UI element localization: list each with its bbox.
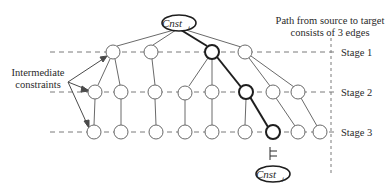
source-subscript: i <box>188 24 190 32</box>
node-highlighted <box>266 125 280 139</box>
svg-text:Cnst: Cnst <box>162 17 183 29</box>
path-annotation-line1: Path from source to target <box>276 15 385 26</box>
node-highlighted <box>205 45 219 59</box>
node-highlighted <box>239 85 253 99</box>
entails-symbol <box>270 147 277 160</box>
svg-text:Cnst: Cnst <box>256 168 277 180</box>
node <box>144 45 158 59</box>
node <box>106 45 120 59</box>
node <box>148 85 162 99</box>
target-subscript: j <box>281 175 284 183</box>
stage-3-nodes <box>87 125 327 139</box>
node <box>291 125 305 139</box>
node <box>238 45 252 59</box>
node <box>149 125 163 139</box>
node <box>205 125 219 139</box>
node <box>178 125 192 139</box>
source-label: Cnst <box>162 17 183 29</box>
stage-2-label: Stage 2 <box>341 87 372 98</box>
node <box>205 85 219 99</box>
node <box>88 85 102 99</box>
intermediate-label-line2: constraints <box>15 79 61 90</box>
node <box>114 125 128 139</box>
stage-3-label: Stage 3 <box>341 127 372 138</box>
node <box>114 85 128 99</box>
target-label: Cnst <box>256 168 277 180</box>
node <box>238 125 252 139</box>
path-annotation-line2: consists of 3 edges <box>290 27 369 38</box>
constraint-graph-diagram: Cnst i Cnst j Intermediate constraints P… <box>0 0 386 192</box>
target-node: Cnst j <box>256 166 290 183</box>
node <box>87 125 101 139</box>
stage-guide-lines <box>50 38 335 175</box>
node <box>266 85 280 99</box>
node <box>178 86 192 100</box>
node <box>291 85 305 99</box>
node <box>313 125 327 139</box>
stage-1-label: Stage 1 <box>341 47 372 58</box>
source-node: Cnst i <box>162 15 196 32</box>
intermediate-label-line1: Intermediate <box>11 67 64 78</box>
